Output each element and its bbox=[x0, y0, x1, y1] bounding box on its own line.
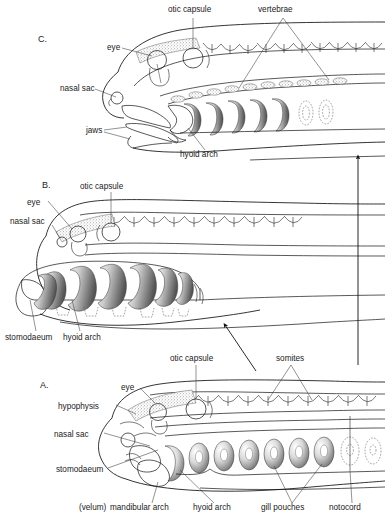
label-eye-B: eye bbox=[27, 198, 41, 207]
label-vertebrae-C: vertebrae bbox=[258, 5, 293, 14]
gill-pouches-A bbox=[189, 437, 381, 473]
label-eye-C: eye bbox=[107, 43, 121, 52]
label-otic-capsule-C: otic capsule bbox=[168, 5, 212, 14]
label-stomodaeum-B: stomodaeum bbox=[5, 333, 53, 342]
label-velum-A: (velum) bbox=[79, 503, 107, 512]
panel-A-drawing bbox=[99, 380, 385, 491]
label-nasal-sac-A: nasal sac bbox=[54, 430, 89, 439]
label-notocord-A: notocord bbox=[329, 503, 361, 512]
anatomy-figure: C. otic capsule vertebrae eye nasal sac … bbox=[0, 0, 385, 520]
panel-transition-arrow bbox=[225, 325, 256, 371]
label-otic-capsule-B: otic capsule bbox=[80, 182, 124, 191]
vertebrae-series bbox=[171, 78, 347, 102]
label-somites-A: somites bbox=[276, 354, 304, 363]
panel-letter-B: B. bbox=[42, 180, 51, 190]
label-mandibular-arch-A: mandibular arch bbox=[110, 503, 169, 512]
label-eye-A: eye bbox=[121, 383, 135, 392]
label-hypophysis-A: hypophysis bbox=[58, 402, 99, 411]
figure-canvas: C. otic capsule vertebrae eye nasal sac … bbox=[0, 0, 385, 520]
panel-letter-A: A. bbox=[40, 380, 49, 390]
jaws-C bbox=[122, 105, 178, 148]
nasal-sac-C bbox=[111, 92, 123, 104]
label-stomodaeum-A: stomodaeum bbox=[56, 465, 104, 474]
label-jaws-C: jaws bbox=[85, 126, 102, 135]
label-gill-pouches-A: gill pouches bbox=[261, 503, 304, 512]
label-hyoid-arch-B: hyoid arch bbox=[63, 333, 101, 342]
panel-letter-C: C. bbox=[38, 34, 47, 44]
label-hyoid-arch-C: hyoid arch bbox=[180, 150, 218, 159]
panel-B-drawing bbox=[16, 200, 385, 329]
panel-C-drawing bbox=[103, 22, 385, 160]
label-otic-capsule-A: otic capsule bbox=[170, 354, 214, 363]
otic-capsule-A bbox=[186, 399, 206, 419]
label-nasal-sac-B: nasal sac bbox=[10, 217, 45, 226]
label-hyoid-arch-A: hyoid arch bbox=[193, 503, 231, 512]
panel-A-leaders bbox=[104, 365, 352, 503]
otic-capsule-C bbox=[183, 48, 203, 68]
mandibular-arch-A bbox=[138, 460, 170, 486]
label-nasal-sac-C: nasal sac bbox=[60, 84, 95, 93]
